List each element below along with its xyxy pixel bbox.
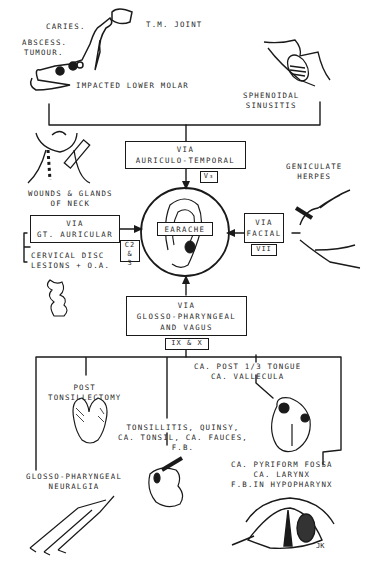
post-tonsil-line2: TONSILLECTOMY bbox=[48, 393, 121, 403]
glosso-line2: GLOSSO-PHARYNGEAL bbox=[137, 311, 236, 322]
facial-line2: FACIAL bbox=[246, 228, 281, 239]
geniculate-label: GENICULATE HERPES bbox=[286, 162, 343, 182]
impacted-molar-label: IMPACTED LOWER MOLAR bbox=[76, 81, 189, 91]
pyriform-line1: CA. PYRIFORM FOSSA bbox=[231, 460, 333, 470]
gt-auricular-line2: GT. AURICULAR bbox=[37, 229, 113, 240]
gt-auricular-box: VIA GT. AURICULAR bbox=[30, 215, 120, 243]
pyriform-line2: CA. LARYNX bbox=[231, 470, 333, 480]
cervical-label: CERVICAL DISC LESIONS + O.A. bbox=[31, 251, 110, 271]
signature: JK bbox=[316, 542, 325, 550]
nerve-v3-tag: V₃ bbox=[200, 171, 218, 183]
glosso-line1: VIA bbox=[178, 300, 196, 311]
wounds-label: WOUNDS & GLANDS OF NECK bbox=[28, 189, 113, 209]
caries-label: CARIES. bbox=[46, 22, 86, 32]
wounds-line1: WOUNDS & GLANDS bbox=[28, 189, 113, 199]
sphenoidal-label: SPHENOIDAL SINUSITIS bbox=[243, 91, 300, 111]
post-tonsil-line1: POST bbox=[48, 383, 121, 393]
facial-line1: VIA bbox=[255, 217, 273, 228]
neuralgia-line2: NEURALGIA bbox=[26, 482, 122, 492]
tonsillitis-line3: F.B. bbox=[118, 443, 248, 453]
nerve-ix-x-tag: IX & X bbox=[165, 338, 209, 350]
tongue-line1: CA. POST 1/3 TONGUE bbox=[194, 362, 301, 372]
nerve-c2-3-tag: C2 & 3 bbox=[120, 240, 140, 262]
glosso-line3: AND VAGUS bbox=[160, 322, 213, 333]
nerve-vii-tag: VII bbox=[251, 244, 277, 256]
gt-auricular-line1: VIA bbox=[66, 218, 84, 229]
nerve-c2-line1: C2 & bbox=[121, 241, 139, 259]
sphenoid-drawing bbox=[264, 40, 330, 86]
facial-box: VIA FACIAL bbox=[244, 213, 284, 243]
auriculo-line1: VIA bbox=[177, 144, 195, 155]
post-tonsillectomy-label: POST TONSILLECTOMY bbox=[48, 383, 121, 403]
tongue-drawing bbox=[272, 398, 311, 452]
neuralgia-line1: GLOSSO-PHARYNGEAL bbox=[26, 472, 122, 482]
nerve-c2-line2: 3 bbox=[121, 259, 139, 268]
auriculo-temporal-box: VIA AURICULO-TEMPORAL bbox=[125, 141, 246, 169]
cervical-line1: CERVICAL DISC bbox=[31, 251, 110, 261]
tumour-label: TUMOUR. bbox=[24, 48, 64, 58]
spine-drawing bbox=[47, 280, 67, 316]
tongue-line2: CA. VALLECULA bbox=[194, 372, 301, 382]
abscess-label: ABSCESS. bbox=[22, 38, 67, 48]
nerve-bundle-drawing bbox=[30, 496, 114, 555]
tonsillitis-label: TONSILLITIS, QUINSY, CA. TONSIL, CA. FAU… bbox=[118, 423, 248, 453]
geniculate-line2: HERPES bbox=[286, 172, 343, 182]
tm-joint-label: T.M. JOINT bbox=[146, 20, 203, 30]
pyriform-line3: F.B.IN HYPOPHARYNX bbox=[231, 480, 333, 490]
glosso-pharyngeal-box: VIA GLOSSO-PHARYNGEAL AND VAGUS bbox=[126, 296, 247, 336]
neuralgia-label: GLOSSO-PHARYNGEAL NEURALGIA bbox=[26, 472, 122, 492]
tonsillitis-line2: CA. TONSIL, CA. FAUCES, bbox=[118, 433, 248, 443]
neck-drawing bbox=[28, 132, 90, 184]
larynx-drawing: JK bbox=[232, 498, 334, 550]
tongue-label: CA. POST 1/3 TONGUE CA. VALLECULA bbox=[194, 362, 301, 382]
tonsil-drawing bbox=[149, 458, 183, 507]
tonsil-fossa-drawing bbox=[73, 398, 107, 443]
wounds-line2: OF NECK bbox=[28, 199, 113, 209]
auriculo-line2: AURICULO-TEMPORAL bbox=[136, 155, 235, 166]
earache-label: EARACHE bbox=[157, 222, 213, 236]
pyriform-label: CA. PYRIFORM FOSSA CA. LARYNX F.B.IN HYP… bbox=[231, 460, 333, 490]
tonsillitis-line1: TONSILLITIS, QUINSY, bbox=[118, 423, 248, 433]
sphenoidal-line1: SPHENOIDAL bbox=[243, 91, 300, 101]
cervical-line2: LESIONS + O.A. bbox=[31, 261, 110, 271]
sphenoidal-line2: SINUSITIS bbox=[243, 101, 300, 111]
geniculate-line1: GENICULATE bbox=[286, 162, 343, 172]
geniculate-drawing bbox=[296, 190, 360, 268]
